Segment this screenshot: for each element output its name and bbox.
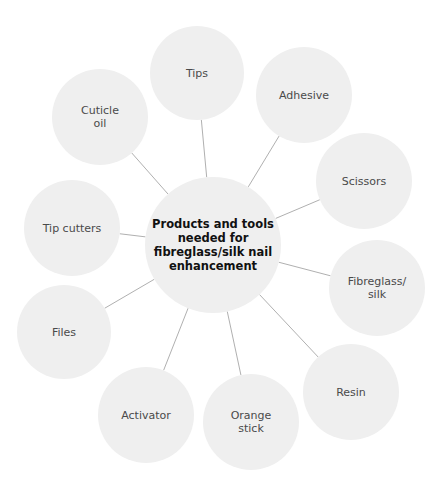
node-resin: Resin <box>303 344 399 440</box>
node-tips: Tips <box>150 26 244 120</box>
connector-activator <box>164 308 188 370</box>
connector-orange-stick <box>227 311 241 375</box>
center-label: Products and tools needed for fibreglass… <box>152 217 274 273</box>
node-fibreglass-silk: Fibreglass/ silk <box>329 240 425 336</box>
connector-adhesive <box>248 136 279 187</box>
node-label: Activator <box>121 409 171 422</box>
connector-fibreglass-silk <box>279 262 331 276</box>
node-label: Orange stick <box>231 409 272 435</box>
node-label: Tip cutters <box>43 222 102 235</box>
node-label: Resin <box>336 386 366 399</box>
node-label: Scissors <box>342 175 387 188</box>
center-node: Products and tools needed for fibreglass… <box>145 177 281 313</box>
node-tip-cutters: Tip cutters <box>24 180 120 276</box>
node-activator: Activator <box>98 367 194 463</box>
node-files: Files <box>17 285 111 379</box>
connector-tips <box>201 120 206 177</box>
node-cuticle-oil: Cuticle oil <box>52 69 148 165</box>
node-scissors: Scissors <box>316 133 412 229</box>
node-label: Tips <box>186 67 208 80</box>
connector-tip-cutters <box>120 234 146 237</box>
node-orange-stick: Orange stick <box>203 374 299 470</box>
node-label: Adhesive <box>279 89 329 102</box>
node-label: Fibreglass/ silk <box>348 275 407 301</box>
connector-files <box>105 279 155 308</box>
node-adhesive: Adhesive <box>256 47 352 143</box>
connector-scissors <box>276 200 320 219</box>
connector-resin <box>260 295 319 357</box>
connector-cuticle-oil <box>132 153 168 194</box>
node-label: Files <box>52 326 76 339</box>
node-label: Cuticle oil <box>81 104 119 130</box>
